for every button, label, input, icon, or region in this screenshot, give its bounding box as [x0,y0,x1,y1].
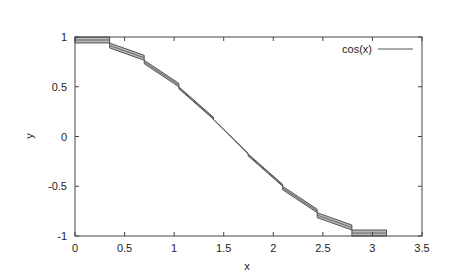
x-tick-label: 0.5 [117,242,132,254]
x-tick-label: 2.5 [315,242,330,254]
plot-frame [75,37,422,236]
axes [75,37,422,236]
cos-line-segment [179,88,214,118]
cos-line-segment [213,119,248,153]
x-tick-label: 3.5 [414,242,429,254]
legend: cos(x) [342,43,413,55]
x-tick-label: 0 [72,242,78,254]
cos-line-segment [110,45,145,57]
x-axis-ticks: 00.511.522.533.5 [72,37,430,254]
x-tick-label: 2 [270,242,276,254]
legend-label: cos(x) [342,43,372,55]
cos-line-segment [248,155,283,185]
cos-line-segment [144,62,179,85]
y-tick-label: 1 [61,31,67,43]
y-tick-label: 0 [61,131,67,143]
y-axis-label: y [23,133,35,139]
y-axis-ticks: -1-0.500.51 [48,31,422,242]
x-tick-label: 3 [369,242,375,254]
y-tick-label: -0.5 [48,180,67,192]
plot-area [75,37,387,236]
cos-line-segment [317,215,352,227]
cos-line-segment [283,188,318,211]
x-tick-label: 1.5 [216,242,231,254]
x-tick-label: 1 [171,242,177,254]
chart: 00.511.522.533.5 -1-0.500.51 x y cos(x) [0,0,453,280]
x-axis-label: x [244,260,250,272]
y-tick-label: -1 [57,230,67,242]
y-tick-label: 0.5 [52,81,67,93]
